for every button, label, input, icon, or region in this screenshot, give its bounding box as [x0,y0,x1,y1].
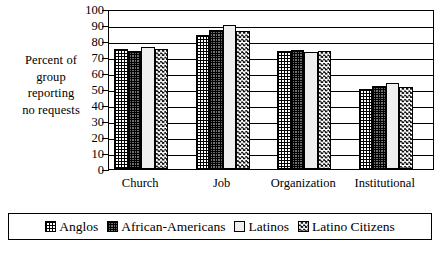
legend-item[interactable]: Latino Citizens [298,220,395,234]
y-axis-tick-label: 30 [70,116,104,129]
x-axis-tick-label: Institutional [344,176,426,190]
legend-label: African-Americans [121,220,225,234]
y-axis-tick-label: 10 [70,148,104,161]
x-axis-tick-labels: ChurchJobOrganizationInstitutional [108,176,434,196]
y-axis-tick-label: 70 [70,52,104,65]
bar-group [109,11,191,169]
plot-area [108,10,434,170]
legend-swatch-icon [298,221,309,232]
y-axis-tick-label: 40 [70,100,104,113]
y-axis-tick-label: 90 [70,20,104,33]
legend-item[interactable]: Anglos [45,220,98,234]
legend-label: Latino Citizens [312,220,395,234]
bar [114,49,128,169]
legend-item[interactable]: African-Americans [107,220,225,234]
bar [155,49,169,169]
x-axis-tick-label: Church [99,176,181,190]
legend-label: Latinos [248,220,289,234]
x-axis-tick-label: Organization [262,176,344,190]
y-axis-tick-label: 80 [70,36,104,49]
bar-group [354,11,436,169]
y-axis-tick-labels: 0102030405060708090100 [66,10,104,170]
chart-legend: AnglosAfrican-AmericansLatinosLatino Cit… [8,213,432,240]
bar [386,83,400,169]
bar [359,89,373,169]
legend-label: Anglos [59,220,98,234]
bar [128,51,142,169]
bar [141,47,155,169]
y-axis-tick-label: 20 [70,132,104,145]
bar-chart-figure: Percent of group reporting no requests 0… [0,0,443,253]
bar [304,52,318,169]
bar [236,31,250,169]
y-axis-tick-label: 60 [70,68,104,81]
x-axis-tick-label: Job [181,176,263,190]
legend-swatch-icon [45,221,56,232]
y-axis-tick-mark [102,170,109,171]
bar [223,25,237,169]
bar [209,30,223,169]
bar [277,51,291,169]
bar-group [191,11,273,169]
bar [399,87,413,169]
bar [291,50,305,169]
y-axis-tick-label: 50 [70,84,104,97]
legend-item[interactable]: Latinos [234,220,289,234]
legend-swatch-icon [234,221,245,232]
bar-group [272,11,354,169]
bar [372,86,386,169]
y-axis-tick-label: 0 [70,164,104,177]
bar [318,51,332,169]
y-axis-tick-label: 100 [70,4,104,17]
bar [196,35,210,169]
legend-swatch-icon [107,221,118,232]
